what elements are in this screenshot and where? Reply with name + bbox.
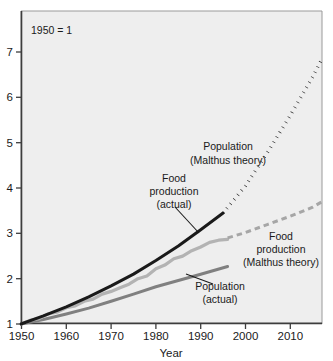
y-tick-label-4: 4 <box>7 182 14 194</box>
x-tick-label-2010: 2010 <box>278 330 304 342</box>
food-actual-label-line3: (actual) <box>156 198 191 210</box>
x-axis-title: Year <box>159 347 182 359</box>
food-actual-label-line2: production <box>149 185 198 197</box>
population-actual-label-line1: Population <box>195 280 245 292</box>
population-malthus-label-line2: (Malthus theory) <box>190 154 266 166</box>
x-tick-label-1990: 1990 <box>188 330 214 342</box>
y-tick-label-5: 5 <box>7 137 13 149</box>
y-tick-label-7: 7 <box>7 46 13 58</box>
population-malthus-label-line1: Population <box>203 140 253 152</box>
chart-figure: 1 2 3 4 5 6 7 1950 1960 1970 1980 1990 2… <box>0 0 333 361</box>
y-axis-ticks <box>16 52 21 324</box>
y-tick-label-6: 6 <box>7 91 13 103</box>
x-axis-ticks <box>22 324 291 329</box>
x-tick-label-1970: 1970 <box>98 330 124 342</box>
food-malthus-label-line3: (Malthus theory) <box>243 256 319 268</box>
malthus-population-food-chart: 1 2 3 4 5 6 7 1950 1960 1970 1980 1990 2… <box>0 0 333 361</box>
x-tick-label-2000: 2000 <box>233 330 259 342</box>
x-tick-label-1950: 1950 <box>9 330 35 342</box>
population-actual-label-line2: (actual) <box>202 293 237 305</box>
y-tick-label-3: 3 <box>7 227 13 239</box>
y-tick-label-2: 2 <box>7 273 13 285</box>
food-actual-label-line1: Food <box>162 172 186 184</box>
food-malthus-label-line1: Food <box>269 230 293 242</box>
x-tick-label-1960: 1960 <box>54 330 80 342</box>
population-actual-label: Population (actual) <box>195 280 245 305</box>
normalization-note: 1950 = 1 <box>31 24 72 36</box>
food-malthus-label-line2: production <box>256 243 305 255</box>
x-tick-label-1980: 1980 <box>143 330 169 342</box>
y-tick-label-1: 1 <box>7 318 13 330</box>
plot-background <box>21 11 322 324</box>
